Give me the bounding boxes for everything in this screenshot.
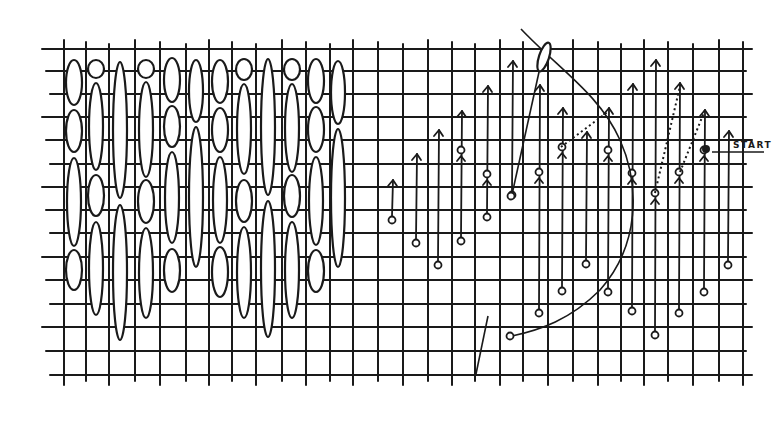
stitch-hole <box>435 262 442 269</box>
needle-shaft <box>511 72 539 199</box>
stitch-oval <box>212 247 228 297</box>
stitch-hole <box>413 240 420 247</box>
stitch-oval <box>164 58 180 102</box>
stitch-hole <box>458 238 465 245</box>
stitch-hole <box>458 147 465 154</box>
stitch-hole <box>629 308 636 315</box>
right-panel-working-stitches <box>388 60 733 339</box>
stitch-hole <box>536 310 543 317</box>
stitch-oval <box>88 175 104 216</box>
stitch-hole <box>676 169 683 176</box>
stitch-thread-line <box>392 180 393 216</box>
start-dot-icon <box>702 145 710 153</box>
stitch-oval <box>284 59 300 80</box>
stitch-oval <box>138 60 154 78</box>
stitch-oval <box>284 175 300 217</box>
stitch-oval <box>165 152 179 243</box>
stitch-hole <box>583 261 590 268</box>
stitch-oval <box>237 84 251 174</box>
stitch-oval <box>89 222 103 315</box>
stitch-oval <box>212 108 228 152</box>
stitch-oval <box>309 157 323 245</box>
stitch-oval <box>139 228 153 318</box>
stitch-hole <box>701 289 708 296</box>
stitch-oval <box>164 106 180 147</box>
thread-tail <box>476 316 488 374</box>
stitch-thread-line <box>562 108 563 287</box>
stitch-hole <box>536 169 543 176</box>
stitch-thread-line <box>679 83 680 309</box>
stitch-oval <box>331 129 345 267</box>
stitch-thread-line <box>461 111 462 237</box>
stitch-thread-line <box>608 108 609 288</box>
stitch-thread-line <box>704 110 705 288</box>
stitch-oval <box>66 250 82 290</box>
stitch-thread-line <box>416 154 417 239</box>
stitch-oval <box>308 59 324 103</box>
thread-end-hole <box>507 333 514 340</box>
start-label: START <box>733 140 772 150</box>
stitch-thread-line <box>586 132 587 260</box>
stitch-oval <box>212 60 228 103</box>
stitch-thread-line <box>487 86 488 213</box>
stitch-oval <box>113 205 127 340</box>
stitch-thread-line <box>512 61 513 191</box>
stitch-hole <box>605 289 612 296</box>
stitch-oval <box>308 107 324 152</box>
stitch-oval <box>89 83 103 170</box>
stitch-oval <box>88 60 104 78</box>
stitch-oval <box>66 60 82 105</box>
stitch-oval <box>236 59 252 80</box>
stitch-oval <box>67 158 81 246</box>
stitch-hole <box>559 288 566 295</box>
stitch-oval <box>138 180 154 223</box>
stitch-oval <box>213 157 227 243</box>
stitch-hole <box>605 147 612 154</box>
left-panel-completed-stitches <box>66 58 345 340</box>
stitch-oval <box>285 222 299 318</box>
needle-and-thread-path <box>476 29 705 374</box>
stitch-thread-line <box>438 130 439 261</box>
stitch-oval <box>237 227 251 318</box>
needle-entry-hole <box>508 193 515 200</box>
stitch-hole <box>676 310 683 317</box>
stitch-oval <box>189 127 203 267</box>
stitch-thread-line <box>728 131 729 261</box>
stitch-hole <box>389 217 396 224</box>
stitch-oval <box>308 250 324 292</box>
stitch-oval <box>261 59 275 195</box>
stitch-oval <box>66 110 82 152</box>
stitch-oval <box>139 82 153 177</box>
stitch-oval <box>113 62 127 198</box>
stitch-oval <box>189 60 203 122</box>
stitch-hole <box>484 214 491 221</box>
stitch-oval <box>164 249 180 292</box>
stitch-oval <box>261 201 275 337</box>
stitch-oval <box>331 61 345 124</box>
stitch-oval <box>285 84 299 172</box>
stitch-hole <box>725 262 732 269</box>
stitch-oval <box>236 180 252 222</box>
stitch-hole <box>652 332 659 339</box>
stitch-hole <box>484 171 491 178</box>
stitch-thread-line <box>539 85 540 309</box>
